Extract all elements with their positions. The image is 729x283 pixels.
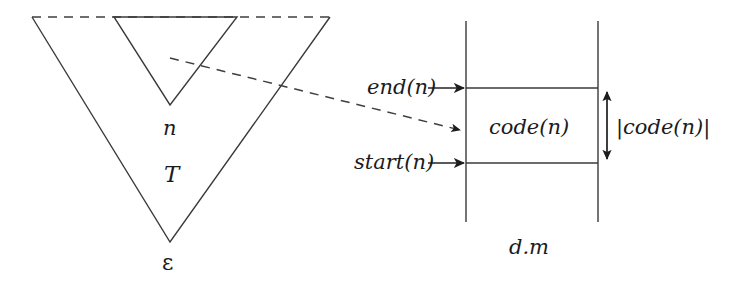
figure-root: n T ε end(n) start(n) code(n) |code(n)| … — [0, 0, 729, 283]
label-memory-segment-caption: d.m — [509, 237, 549, 258]
label-code-block: code(n) — [489, 117, 569, 138]
label-subtree-root-n: n — [163, 118, 177, 139]
inner-triangle-outline — [114, 17, 237, 105]
outer-triangle-sides — [32, 17, 330, 242]
label-code-length: |code(n)| — [616, 117, 710, 138]
diagram-canvas — [0, 0, 729, 283]
outer-triangle-T — [32, 17, 330, 242]
label-root-epsilon: ε — [162, 252, 173, 274]
inner-triangle-n — [114, 17, 237, 105]
label-end-pointer: end(n) — [367, 77, 436, 98]
label-start-pointer: start(n) — [354, 152, 434, 173]
label-tree-T: T — [164, 163, 179, 186]
